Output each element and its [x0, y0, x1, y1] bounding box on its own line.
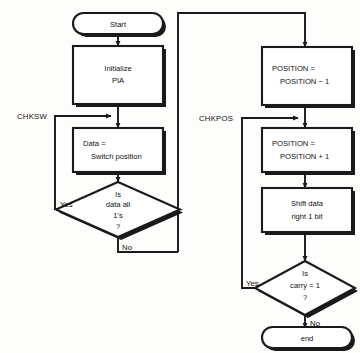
label-no-carry: No [310, 319, 321, 328]
node-initialize-pia-line2: PIA [112, 76, 125, 85]
node-check-all-ones-line2: data all [106, 200, 131, 209]
node-end-label: end [301, 334, 314, 343]
node-position-plus-line1: POSITION = [272, 139, 315, 148]
flowchart-canvas: Start Initialize PIA Data = Switch posit… [0, 0, 360, 353]
flowchart-svg: Start Initialize PIA Data = Switch posit… [0, 0, 360, 353]
node-read-switch: Data = Switch position [73, 128, 166, 175]
node-check-all-ones-line3: 1's [113, 211, 123, 220]
node-position-plus-line2: POSITION + 1 [280, 152, 329, 161]
node-position-minus-line1: POSITION = [272, 64, 315, 73]
label-yes-switch: Yes [60, 200, 73, 209]
label-chkpos: CHKPOS [199, 114, 233, 123]
node-start: Start [73, 13, 166, 37]
node-position-minus: POSITION = POSITION − 1 [262, 47, 355, 108]
label-yes-carry: Yes [246, 279, 259, 288]
label-chksw: CHKSW [17, 112, 47, 121]
node-check-carry-line3: ? [303, 293, 307, 302]
node-initialize-pia-line1: Initialize [104, 64, 131, 73]
node-end: end [262, 327, 355, 351]
node-check-all-ones-line1: Is [115, 190, 121, 199]
label-no-switch: No [122, 243, 133, 252]
node-shift-data-line1: Shift data [291, 199, 324, 208]
node-check-all-ones: Is data all 1's ? [56, 182, 183, 240]
node-check-carry-line1: Is [302, 269, 308, 278]
node-shift-data: Shift data right 1 bit [262, 188, 355, 235]
node-check-carry-line2: carry = 1 [290, 281, 320, 290]
node-read-switch-line1: Data = [83, 139, 106, 148]
node-check-carry: Is carry = 1 ? [255, 261, 358, 318]
node-position-minus-line2: POSITION − 1 [280, 77, 329, 86]
node-read-switch-line2: Switch position [91, 152, 142, 161]
node-start-label: Start [110, 20, 127, 29]
node-check-all-ones-line4: ? [116, 222, 120, 231]
node-initialize-pia: Initialize PIA [73, 46, 166, 107]
node-position-plus: POSITION = POSITION + 1 [262, 128, 355, 175]
node-shift-data-line2: right 1 bit [291, 212, 323, 221]
